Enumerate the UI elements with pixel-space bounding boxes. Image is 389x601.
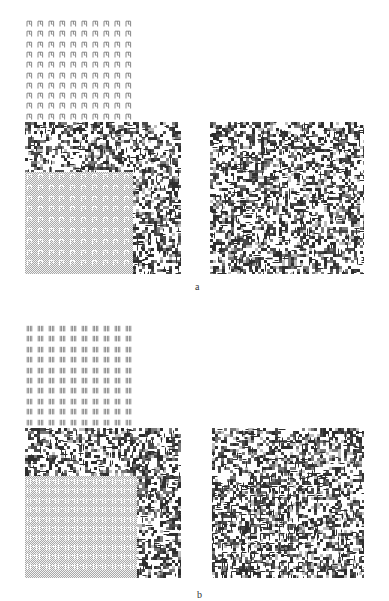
pi-shaped-glyph-icon <box>125 34 132 41</box>
double-bar-glyph-icon <box>114 370 121 377</box>
pi-shaped-glyph-icon <box>59 95 66 102</box>
pi-shaped-glyph-icon <box>37 85 44 92</box>
double-bar-glyph-icon <box>81 370 88 377</box>
pi-shaped-glyph-icon <box>103 95 110 102</box>
pi-shaped-glyph-icon <box>81 23 88 30</box>
double-bar-glyph-icon <box>125 328 132 335</box>
pi-shaped-glyph-icon <box>114 95 121 102</box>
pi-shaped-glyph-icon <box>48 44 55 51</box>
double-bar-glyph-icon <box>125 360 132 367</box>
pi-shaped-glyph-icon <box>81 54 88 61</box>
double-bar-glyph-icon <box>92 318 99 325</box>
double-bar-glyph-icon <box>59 318 66 325</box>
double-bar-glyph-icon <box>81 318 88 325</box>
pi-shaped-glyph-icon <box>92 13 99 20</box>
pi-shaped-glyph-icon <box>103 13 110 20</box>
pi-shaped-glyph-icon <box>103 65 110 72</box>
double-bar-glyph-icon <box>59 380 66 387</box>
pi-shaped-glyph-icon <box>26 95 33 102</box>
pi-shaped-glyph-icon <box>59 44 66 51</box>
double-bar-glyph-icon <box>92 380 99 387</box>
pi-shaped-glyph-icon <box>26 65 33 72</box>
double-bar-glyph-icon <box>103 318 110 325</box>
pi-shaped-glyph-icon <box>37 44 44 51</box>
double-bar-glyph-icon <box>92 412 99 419</box>
pi-shaped-glyph-icon <box>92 44 99 51</box>
pi-shaped-glyph-icon <box>125 54 132 61</box>
pi-shaped-glyph-icon <box>103 44 110 51</box>
double-bar-glyph-icon <box>70 328 77 335</box>
pi-shaped-glyph-icon <box>70 23 77 30</box>
double-bar-glyph-icon <box>37 391 44 398</box>
pi-shaped-glyph-icon <box>59 106 66 113</box>
double-bar-glyph-icon <box>103 391 110 398</box>
pi-shaped-glyph-icon <box>125 13 132 20</box>
double-bar-glyph-icon <box>81 339 88 346</box>
pi-shaped-glyph-icon <box>92 23 99 30</box>
pi-shaped-glyph-icon <box>37 75 44 82</box>
pi-shaped-glyph-icon <box>103 106 110 113</box>
pi-shaped-glyph-icon <box>103 54 110 61</box>
pi-shaped-glyph-icon <box>26 85 33 92</box>
pi-shaped-glyph-icon <box>26 54 33 61</box>
double-bar-glyph-icon <box>103 339 110 346</box>
pi-shaped-glyph-icon <box>26 44 33 51</box>
pi-shaped-glyph-icon <box>70 44 77 51</box>
double-bar-glyph-icon <box>70 370 77 377</box>
double-bar-glyph-icon <box>37 401 44 408</box>
double-bar-glyph-icon <box>92 370 99 377</box>
pi-shaped-glyph-icon <box>70 54 77 61</box>
double-bar-glyph-icon <box>125 339 132 346</box>
pi-shaped-glyph-icon <box>103 85 110 92</box>
double-bar-glyph-icon <box>92 401 99 408</box>
pi-shaped-glyph-icon <box>114 13 121 20</box>
double-bar-glyph-icon <box>26 401 33 408</box>
double-bar-glyph-icon <box>37 318 44 325</box>
pi-shaped-glyph-icon <box>103 34 110 41</box>
pi-shaped-glyph-icon <box>37 34 44 41</box>
noise-panel-a-right <box>210 122 364 274</box>
double-bar-glyph-icon <box>48 349 55 356</box>
double-bar-glyph-icon <box>103 360 110 367</box>
pi-shaped-glyph-icon <box>81 75 88 82</box>
pi-shaped-glyph-icon <box>59 54 66 61</box>
pi-shaped-glyph-icon <box>59 23 66 30</box>
pi-shaped-glyph-icon <box>48 23 55 30</box>
double-bar-glyph-icon <box>26 339 33 346</box>
pi-shaped-glyph-icon <box>92 34 99 41</box>
pi-shaped-glyph-icon <box>70 95 77 102</box>
pi-shaped-glyph-icon <box>114 44 121 51</box>
double-bar-glyph-icon <box>92 339 99 346</box>
double-bar-glyph-icon <box>59 401 66 408</box>
double-bar-glyph-icon <box>48 328 55 335</box>
pi-shaped-glyph-icon <box>92 65 99 72</box>
pi-shaped-glyph-icon <box>70 65 77 72</box>
noise-panel-a-left <box>25 122 181 274</box>
pi-shaped-glyph-icon <box>59 65 66 72</box>
double-bar-glyph-icon <box>48 391 55 398</box>
double-bar-glyph-icon <box>92 391 99 398</box>
pi-shaped-glyph-icon <box>37 13 44 20</box>
double-bar-glyph-icon <box>48 412 55 419</box>
pi-shaped-glyph-icon <box>70 75 77 82</box>
pi-shaped-glyph-icon <box>125 44 132 51</box>
double-bar-glyph-icon <box>92 328 99 335</box>
pi-shaped-glyph-icon <box>125 23 132 30</box>
double-bar-glyph-icon <box>70 339 77 346</box>
double-bar-glyph-icon <box>70 412 77 419</box>
double-bar-glyph-icon <box>103 412 110 419</box>
double-bar-glyph-icon <box>26 349 33 356</box>
pi-shaped-glyph-icon <box>103 23 110 30</box>
pi-shaped-glyph-icon <box>59 75 66 82</box>
double-bar-glyph-icon <box>26 380 33 387</box>
pi-shaped-glyph-icon <box>125 85 132 92</box>
pi-shaped-glyph-icon <box>114 65 121 72</box>
double-bar-glyph-icon <box>70 349 77 356</box>
noise-panel-b-right <box>212 428 364 578</box>
double-bar-glyph-icon <box>125 380 132 387</box>
pi-shaped-glyph-icon <box>48 13 55 20</box>
pi-shaped-glyph-icon <box>81 34 88 41</box>
double-bar-glyph-icon <box>70 318 77 325</box>
pi-shaped-glyph-icon <box>92 85 99 92</box>
pi-shaped-glyph-icon <box>70 106 77 113</box>
